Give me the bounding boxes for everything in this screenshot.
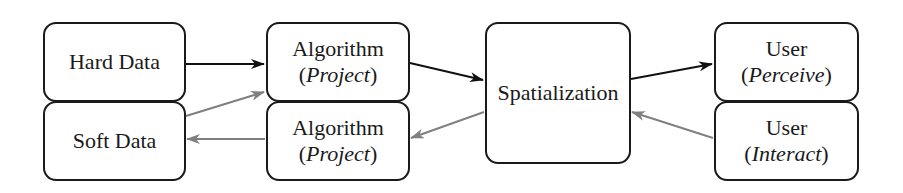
node-sublabel: (Interact) bbox=[744, 141, 828, 167]
node-label: User bbox=[766, 115, 808, 141]
edge-soft-to-algorithm bbox=[186, 92, 264, 116]
node-label: Algorithm bbox=[292, 115, 384, 141]
node-algorithm-project-bottom: Algorithm (Project) bbox=[266, 101, 410, 181]
node-label: Spatialization bbox=[498, 80, 619, 106]
node-user-interact: User (Interact) bbox=[714, 101, 859, 181]
node-label: User bbox=[766, 36, 808, 62]
edge-spatialization-to-user-perceive bbox=[631, 64, 712, 79]
edge-spatialization-to-algorithm bbox=[411, 112, 484, 138]
node-algorithm-project-top: Algorithm (Project) bbox=[266, 22, 410, 102]
node-sublabel: (Perceive) bbox=[741, 62, 832, 88]
node-spatialization: Spatialization bbox=[485, 22, 631, 164]
node-label: Algorithm bbox=[292, 36, 384, 62]
node-label: Hard Data bbox=[69, 49, 160, 75]
node-hard-data: Hard Data bbox=[43, 22, 186, 102]
node-label: Soft Data bbox=[73, 128, 157, 154]
node-soft-data: Soft Data bbox=[43, 101, 186, 181]
edge-user-interact-to-spatialization bbox=[632, 112, 713, 138]
edge-algorithm-to-spatialization bbox=[410, 63, 483, 80]
node-sublabel: (Project) bbox=[299, 62, 378, 88]
node-sublabel: (Project) bbox=[299, 141, 378, 167]
node-user-perceive: User (Perceive) bbox=[714, 22, 859, 102]
